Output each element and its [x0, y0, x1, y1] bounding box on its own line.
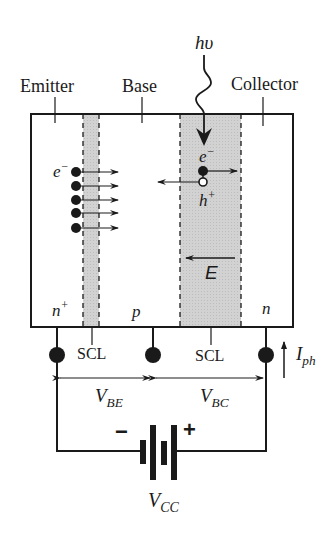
device-body: [31, 114, 293, 327]
battery-circuit: [56, 425, 267, 480]
label-emitter-doping: n+: [52, 300, 69, 319]
collector-terminal: [258, 347, 274, 363]
label-photon: hυ: [195, 33, 213, 52]
label-scl-right: SCL: [195, 348, 224, 364]
battery-cell-1-long: [150, 425, 156, 480]
emitter-terminal: [49, 347, 65, 363]
label-electron-base: e−: [53, 161, 69, 180]
label-collector-doping: n: [262, 300, 271, 317]
battery-cell-2-long: [171, 425, 177, 480]
base-terminal: [145, 347, 161, 363]
battery-cell-2-short: [161, 441, 167, 465]
label-electron-scl: e−: [199, 146, 215, 165]
label-emitter: Emitter: [20, 77, 74, 95]
battery-minus-sign: −: [115, 421, 128, 443]
label-collector: Collector: [231, 75, 298, 93]
label-base: Base: [122, 77, 157, 95]
label-field: E: [205, 263, 218, 282]
label-hole: h+: [199, 190, 216, 209]
label-scl-left: SCL: [77, 346, 106, 362]
label-vcc: VCC: [148, 490, 179, 515]
label-vbc: VBC: [200, 386, 229, 409]
hole-dot: [199, 178, 207, 186]
scl-regions: [83, 113, 241, 327]
label-photocurrent: Iph: [296, 344, 316, 367]
label-base-doping: p: [132, 303, 141, 320]
scl-base-emitter: [83, 113, 99, 327]
battery-plus-sign: +: [183, 419, 196, 441]
label-vbe: VBE: [95, 386, 123, 409]
battery-cell-1-short: [140, 440, 146, 464]
